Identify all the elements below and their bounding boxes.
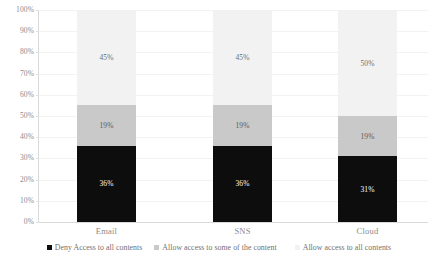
legend-swatch-icon — [47, 245, 52, 250]
legend-swatch-icon — [154, 245, 159, 250]
bar-segment-value-label: 31% — [360, 185, 374, 194]
bar-group[interactable]: 31%19%50% — [338, 10, 397, 222]
x-axis-category-label: Cloud — [323, 226, 413, 236]
y-axis-tick-mark — [36, 10, 39, 11]
bar-group[interactable]: 36%19%45% — [77, 10, 136, 222]
bar-segment[interactable]: 45% — [213, 10, 272, 105]
bar-segment[interactable]: 31% — [338, 156, 397, 222]
y-axis-tick-mark — [36, 180, 39, 181]
x-axis-category-label: Email — [62, 226, 152, 236]
y-axis-tick-mark — [36, 95, 39, 96]
y-axis-tick-mark — [36, 137, 39, 138]
legend-label: Allow access to all contents — [303, 243, 391, 252]
y-axis-tick-mark — [36, 222, 39, 223]
y-axis-tick-label: 50% — [0, 112, 34, 120]
plot-area: 36%19%45%36%19%45%31%19%50% — [38, 10, 428, 222]
bar-segment-value-label: 19% — [235, 121, 249, 130]
y-axis-tick-label: 80% — [0, 48, 34, 56]
bar-segment[interactable]: 50% — [338, 10, 397, 116]
legend-item[interactable]: Allow access to all contents — [295, 243, 391, 252]
bar-segment-value-label: 36% — [235, 179, 249, 188]
bar-segment[interactable]: 19% — [213, 105, 272, 145]
legend-item[interactable]: Deny Access to all contents — [47, 243, 143, 252]
bar-segment-value-label: 19% — [360, 132, 374, 141]
legend-swatch-icon — [295, 245, 300, 250]
legend-item[interactable]: Allow access to some of the content — [154, 243, 276, 252]
bar-segment-value-label: 45% — [99, 53, 113, 62]
chart-legend: Deny Access to all contentsAllow access … — [0, 243, 438, 256]
y-axis-tick-label: 100% — [0, 6, 34, 14]
y-axis-tick-mark — [36, 116, 39, 117]
y-axis-tick-mark — [36, 31, 39, 32]
y-axis-tick-label: 10% — [0, 197, 34, 205]
legend-label: Deny Access to all contents — [55, 243, 143, 252]
y-axis-tick-label: 0% — [0, 218, 34, 226]
y-axis-tick-mark — [36, 52, 39, 53]
y-axis-tick-label: 30% — [0, 154, 34, 162]
x-axis-category-label: SNS — [198, 226, 288, 236]
bar-segment[interactable]: 45% — [77, 10, 136, 105]
bar-segment-value-label: 45% — [235, 53, 249, 62]
bar-segment-value-label: 19% — [99, 121, 113, 130]
bar-group[interactable]: 36%19%45% — [213, 10, 272, 222]
legend-label: Allow access to some of the content — [162, 243, 276, 252]
y-axis-tick-mark — [36, 201, 39, 202]
y-axis-tick-label: 90% — [0, 27, 34, 35]
bar-segment-value-label: 36% — [99, 179, 113, 188]
stacked-bar-chart: 0%10%20%30%40%50%60%70%80%90%100% 36%19%… — [0, 0, 438, 256]
y-axis-tick-label: 20% — [0, 176, 34, 184]
bar-segment-value-label: 50% — [360, 59, 374, 68]
y-axis-tick-label: 70% — [0, 70, 34, 78]
bar-segment[interactable]: 36% — [213, 146, 272, 222]
y-axis-tick-label: 60% — [0, 91, 34, 99]
bar-segment[interactable]: 36% — [77, 146, 136, 222]
x-axis-line — [38, 222, 428, 223]
y-axis-tick-label: 40% — [0, 133, 34, 141]
bar-segment[interactable]: 19% — [77, 105, 136, 145]
y-axis-tick-mark — [36, 158, 39, 159]
y-axis-tick-mark — [36, 74, 39, 75]
y-axis-tick-labels: 0%10%20%30%40%50%60%70%80%90%100% — [0, 10, 34, 223]
bar-segment[interactable]: 19% — [338, 116, 397, 156]
